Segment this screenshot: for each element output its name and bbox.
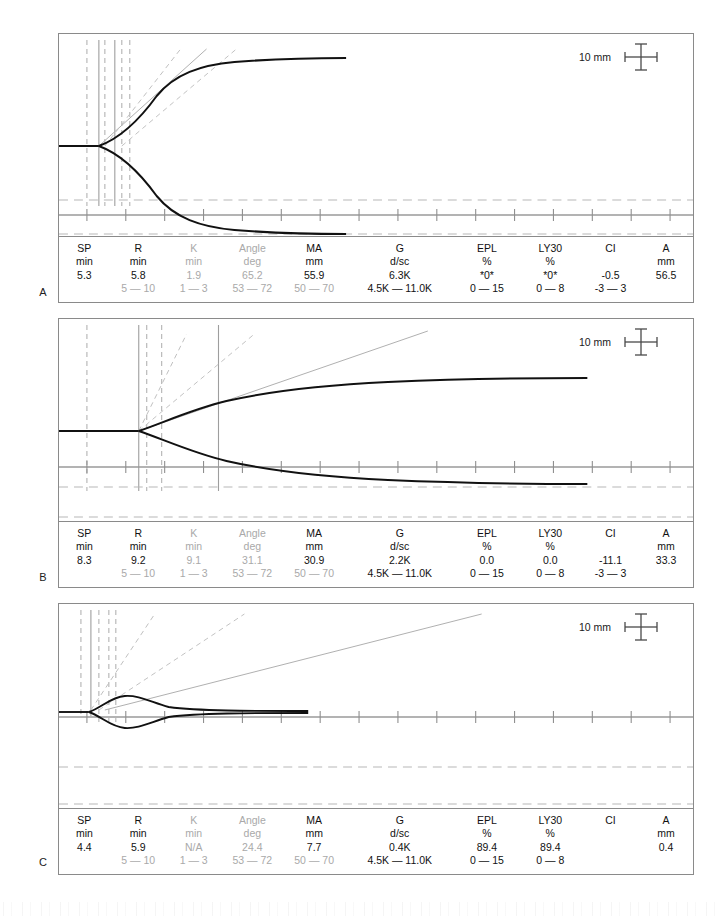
unit-ly30: % [519,827,582,840]
value-ma: 30.9 [284,554,344,567]
col-header-epl: EPL [455,237,518,255]
range-a [639,282,693,298]
range-epl: 0 — 15 [455,282,518,298]
unit-a: mm [639,540,693,553]
col-header-k: K [167,809,221,827]
range-g: 4.5K — 11.0K [344,282,455,298]
col-header-angle: Angle [221,237,284,255]
col-header-g: G [344,809,455,827]
unit-k: min [167,827,221,840]
scale-marker-c: 10 mm [579,612,663,642]
panel-label-c: C [34,856,52,868]
col-header-k: K [167,237,221,255]
range-r: 5 — 10 [110,854,167,870]
unit-k: min [167,255,221,268]
value-a: 0.4 [639,841,693,854]
unit-angle: deg [221,540,284,553]
col-header-sp: SP [59,809,110,827]
range-ci: -3 — 3 [582,567,639,583]
range-angle: 53 — 72 [221,854,284,870]
value-ly30: 0.0 [519,554,582,567]
col-header-ly30: LY30 [519,522,582,540]
range-a [639,567,693,583]
unit-r: min [110,540,167,553]
teg-panel-b: 10 mm SP R K Angle MA G EPL LY30 CI A [58,318,694,588]
value-g: 2.2K [344,554,455,567]
value-ma: 55.9 [284,269,344,282]
value-r: 9.2 [110,554,167,567]
range-sp [59,567,110,583]
unit-ly30: % [519,540,582,553]
scale-label-b: 10 mm [579,336,611,348]
value-ly30: *0* [519,269,582,282]
table-row-values-a: 5.3 5.8 1.9 65.2 55.9 6.3K *0* *0* -0.5 … [59,269,693,282]
value-ci: -0.5 [582,269,639,282]
range-epl: 0 — 15 [455,854,518,870]
range-ci [582,854,639,870]
unit-ci [582,540,639,553]
unit-ci [582,255,639,268]
teg-parameter-table-c: SP R K Angle MA G EPL LY30 CI A min min … [59,808,693,874]
col-header-a: A [639,237,693,255]
value-sp: 8.3 [59,554,110,567]
scale-marker-b: 10 mm [579,327,663,357]
table-row-headers-c: SP R K Angle MA G EPL LY30 CI A [59,809,693,827]
range-sp [59,282,110,298]
range-k: 1 — 3 [167,854,221,870]
teg-parameter-table-b: SP R K Angle MA G EPL LY30 CI A min min … [59,521,693,587]
unit-ci [582,827,639,840]
col-header-ma: MA [284,522,344,540]
table-row-units-c: min min min deg mm d/sc % % mm [59,827,693,840]
col-header-angle: Angle [221,809,284,827]
col-header-ci: CI [582,237,639,255]
range-angle: 53 — 72 [221,282,284,298]
value-angle: 31.1 [221,554,284,567]
unit-r: min [110,827,167,840]
unit-angle: deg [221,827,284,840]
col-header-ly30: LY30 [519,237,582,255]
table-row-values-b: 8.3 9.2 9.1 31.1 30.9 2.2K 0.0 0.0 -11.1… [59,554,693,567]
col-header-angle: Angle [221,522,284,540]
range-epl: 0 — 15 [455,567,518,583]
unit-ma: mm [284,827,344,840]
value-k: 9.1 [167,554,221,567]
range-r: 5 — 10 [110,567,167,583]
unit-a: mm [639,827,693,840]
unit-ma: mm [284,540,344,553]
col-header-epl: EPL [455,809,518,827]
col-header-g: G [344,237,455,255]
col-header-a: A [639,522,693,540]
reference-dashed-horizontals-a [59,200,693,234]
value-g: 0.4K [344,841,455,854]
col-header-k: K [167,522,221,540]
range-ma: 50 — 70 [284,567,344,583]
value-r: 5.9 [110,841,167,854]
range-ma: 50 — 70 [284,282,344,298]
range-k: 1 — 3 [167,282,221,298]
teg-envelope-c [59,696,308,728]
value-ci: -11.1 [582,554,639,567]
col-header-ci: CI [582,522,639,540]
teg-panel-a: 10 mm SP R K Angle MA G EPL LY30 CI A [58,33,694,303]
col-header-ma: MA [284,809,344,827]
table-row-values-c: 4.4 5.9 N/A 24.4 7.7 0.4K 89.4 89.4 0.4 [59,841,693,854]
teg-panel-c: 10 mm SP R K Angle MA G EPL LY30 CI A [58,603,694,875]
teg-parameter-table-a: SP R K Angle MA G EPL LY30 CI A min min … [59,236,693,302]
range-ly30: 0 — 8 [519,282,582,298]
table-row-ranges-c: 5 — 10 1 — 3 53 — 72 50 — 70 4.5K — 11.0… [59,854,693,870]
table-row-ranges-a: 5 — 10 1 — 3 53 — 72 50 — 70 4.5K — 11.0… [59,282,693,298]
value-angle: 24.4 [221,841,284,854]
col-header-a: A [639,809,693,827]
unit-sp: min [59,540,110,553]
angle-rays-b [139,331,428,431]
unit-angle: deg [221,255,284,268]
unit-sp: min [59,827,110,840]
reference-dashed-horizontals-b [59,487,693,517]
range-g: 4.5K — 11.0K [344,854,455,870]
unit-epl: % [455,540,518,553]
table-row-ranges-b: 5 — 10 1 — 3 53 — 72 50 — 70 4.5K — 11.0… [59,567,693,583]
unit-k: min [167,540,221,553]
table-row-units-b: min min min deg mm d/sc % % mm [59,540,693,553]
unit-r: min [110,255,167,268]
table-row-headers-b: SP R K Angle MA G EPL LY30 CI A [59,522,693,540]
